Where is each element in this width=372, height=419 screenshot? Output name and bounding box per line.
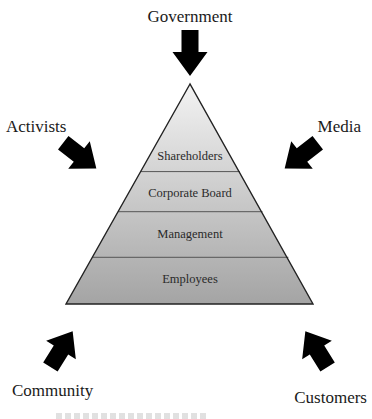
force-label-customers: Customers bbox=[294, 388, 367, 407]
pyramid: Shareholders Corporate Board Management … bbox=[66, 84, 313, 304]
arrow-up-left-icon bbox=[291, 322, 343, 376]
tier-label-shareholders: Shareholders bbox=[157, 149, 222, 163]
tier-label-corporate-board: Corporate Board bbox=[148, 186, 232, 200]
stakeholder-pressure-diagram: Shareholders Corporate Board Management … bbox=[0, 0, 372, 419]
clipped-caption-line bbox=[0, 413, 372, 419]
clipped-caption-fragment bbox=[56, 413, 206, 419]
arrow-up-right-icon bbox=[36, 322, 88, 376]
tier-label-management: Management bbox=[157, 227, 223, 241]
arrow-down-left-icon bbox=[274, 129, 329, 182]
arrow-down-right-icon bbox=[52, 129, 107, 182]
force-label-activists: Activists bbox=[6, 117, 66, 136]
force-label-government: Government bbox=[148, 7, 233, 26]
force-label-community: Community bbox=[12, 381, 94, 400]
tier-label-employees: Employees bbox=[162, 272, 218, 286]
force-label-media: Media bbox=[318, 117, 362, 136]
arrow-down-icon bbox=[173, 30, 208, 76]
